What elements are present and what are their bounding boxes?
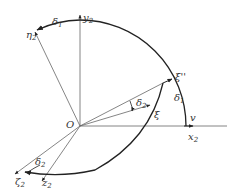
v-label: v — [190, 112, 196, 123]
zeta2-axis — [15, 126, 80, 174]
delta2-mid-arc — [130, 101, 132, 111]
rotation-diagram: O y2 η2 x2 v ζ2 z2 ξ'' ξ δ1 δ1 δ2 δ2 — [0, 0, 233, 195]
xi-pp-arrow — [163, 79, 172, 83]
delta2-arc — [25, 83, 163, 175]
zeta2-label: ζ2 — [15, 176, 25, 189]
delta1-right-label: δ1 — [174, 92, 185, 105]
delta1-top-label: δ1 — [52, 16, 63, 29]
z2-axis — [42, 126, 80, 181]
eta2-axis — [35, 32, 80, 126]
origin-label: O — [66, 119, 74, 130]
xi-label: ξ — [154, 109, 160, 120]
y2-label: y2 — [82, 12, 94, 25]
delta2-mid-label: δ2 — [136, 97, 147, 110]
xi-pp-label: ξ'' — [175, 71, 186, 82]
x2-label: x2 — [188, 131, 199, 144]
xi-pp-vector — [80, 83, 163, 126]
eta2-label: η2 — [26, 29, 37, 42]
z2-label: z2 — [41, 177, 52, 190]
